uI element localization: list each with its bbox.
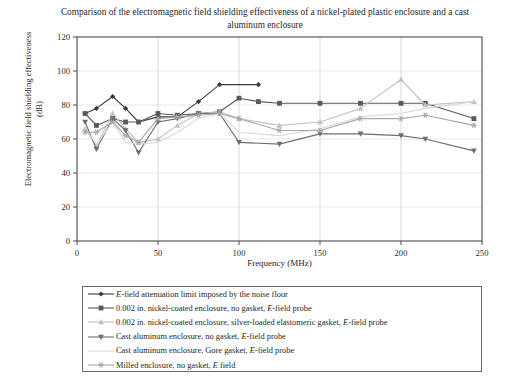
data-point-marker bbox=[136, 120, 141, 125]
x-tick-label: 200 bbox=[395, 248, 408, 258]
x-tick-label: 150 bbox=[314, 248, 327, 258]
y-tick-label: 20 bbox=[61, 202, 70, 212]
legend-marker-square-icon bbox=[86, 301, 116, 315]
legend-item-5: Cast aluminum enclosure, Gore gasket, E-… bbox=[83, 344, 481, 358]
legend-label: Milled enclosure, no gasket, E field bbox=[116, 361, 235, 370]
legend-item-3: 0.002 in. nickel-coated enclosure, silve… bbox=[83, 315, 481, 329]
y-tick-label: 60 bbox=[61, 134, 70, 144]
legend-item-1: E-field attenuation limit imposed by the… bbox=[83, 287, 481, 301]
legend-label: Cast aluminum enclosure, no gasket, E-fi… bbox=[116, 332, 286, 341]
legend-label: E-field attenuation limit imposed by the… bbox=[116, 290, 288, 299]
legend-item-6: Milled enclosure, no gasket, E field bbox=[83, 358, 481, 372]
y-axis-label: Electromagnetic field shielding effectiv… bbox=[23, 29, 45, 189]
y-tick-label: 0 bbox=[66, 236, 70, 246]
legend: E-field attenuation limit imposed by the… bbox=[82, 286, 482, 372]
y-tick-label: 80 bbox=[61, 100, 70, 110]
plot-svg: 020406080100120050100150200250 bbox=[0, 0, 531, 275]
data-point-marker bbox=[237, 96, 242, 101]
data-point-marker bbox=[399, 101, 404, 106]
x-tick-label: 100 bbox=[233, 248, 246, 258]
y-tick-label: 120 bbox=[57, 32, 70, 42]
legend-label: 0.002 in. nickel-coated enclosure, silve… bbox=[116, 318, 387, 327]
legend-marker-triangle-up-icon bbox=[86, 315, 116, 329]
x-axis-label: Frequency (MHz) bbox=[77, 258, 482, 268]
data-point-marker bbox=[94, 123, 99, 128]
legend-marker-none-icon bbox=[86, 344, 116, 358]
data-point-marker bbox=[358, 101, 363, 106]
legend-marker-triangle-down-icon bbox=[86, 330, 116, 344]
figure-root: Comparison of the electromagnetic field … bbox=[0, 0, 531, 387]
data-point-marker bbox=[99, 306, 104, 311]
data-point-marker bbox=[472, 116, 477, 121]
legend-marker-diamond-icon bbox=[86, 287, 116, 301]
x-tick-label: 250 bbox=[476, 248, 489, 258]
y-tick-label: 100 bbox=[57, 66, 70, 76]
legend-label: Cast aluminum enclosure, Gore gasket, E-… bbox=[116, 346, 294, 355]
legend-marker-star-icon bbox=[86, 358, 116, 372]
data-point-marker bbox=[318, 101, 323, 106]
data-point-marker bbox=[98, 362, 104, 367]
legend-label: 0.002 in. nickel-coated enclosure, no ga… bbox=[116, 304, 312, 313]
x-tick-label: 0 bbox=[75, 248, 79, 258]
legend-item-4: Cast aluminum enclosure, no gasket, E-fi… bbox=[83, 330, 481, 344]
data-point-marker bbox=[156, 111, 161, 116]
data-point-marker bbox=[98, 291, 103, 296]
x-tick-label: 50 bbox=[154, 248, 163, 258]
chart-area: Electromagnetic field shielding effectiv… bbox=[0, 0, 531, 275]
data-point-marker bbox=[277, 101, 282, 106]
y-tick-label: 40 bbox=[61, 168, 70, 178]
data-point-marker bbox=[123, 120, 128, 125]
legend-item-2: 0.002 in. nickel-coated enclosure, no ga… bbox=[83, 301, 481, 315]
data-point-marker bbox=[256, 99, 261, 104]
data-point-marker bbox=[83, 111, 88, 116]
